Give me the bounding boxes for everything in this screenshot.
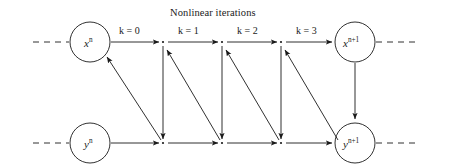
junction-dot-bottom-2	[221, 142, 223, 144]
junction-dot-top-1	[162, 41, 164, 43]
node-label-y-n: yn	[84, 139, 92, 150]
node-label-x-np1: xn+1	[343, 38, 359, 49]
diagram-title: Nonlinear iterations	[170, 8, 256, 19]
node-label-x-n-superscript: n	[89, 36, 93, 44]
junction-dot-top-2	[221, 41, 223, 43]
diagonal-arrow-to-j1-top	[167, 50, 220, 140]
node-label-y-np1: yn+1	[343, 139, 359, 150]
iteration-label-k3: k = 3	[296, 26, 317, 36]
diagonal-arrow-to-j3-top	[285, 50, 338, 140]
iteration-label-k2: k = 2	[237, 26, 258, 36]
node-label-x-n: xn	[84, 38, 92, 49]
diagram-canvas	[0, 0, 449, 168]
junction-dot-bottom-1	[162, 142, 164, 144]
junction-dot-bottom-3	[280, 142, 282, 144]
iteration-label-k1: k = 1	[178, 26, 199, 36]
nonlinear-iterations-diagram: Nonlinear iterations k = 0 k = 1 k = 2 k…	[0, 0, 449, 168]
diagonal-arrow-to-j2-top	[226, 50, 279, 140]
diagonal-arrow-to-x-n	[107, 57, 161, 140]
junction-dot-top-3	[280, 41, 282, 43]
node-label-y-np1-superscript: n+1	[348, 137, 359, 145]
node-label-x-np1-superscript: n+1	[348, 36, 359, 44]
iteration-label-k0: k = 0	[119, 26, 140, 36]
node-label-y-n-superscript: n	[89, 137, 93, 145]
